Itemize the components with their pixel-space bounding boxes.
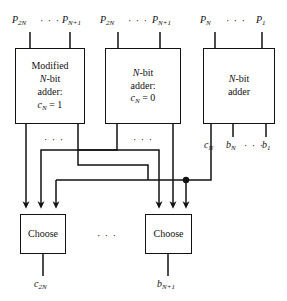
- modified-adder-line-1: Modified: [31, 60, 68, 73]
- input-label-p2n-a: P2N: [12, 14, 26, 25]
- middle-ellipsis-b: · · ·: [133, 134, 153, 145]
- nbit-adder-c0-line-1: N-bit: [133, 67, 154, 80]
- choose-ellipsis: · · ·: [97, 230, 117, 241]
- output-label-cn: cN: [204, 139, 213, 150]
- output-label-b1: b1: [262, 139, 271, 150]
- choose-right-label: Choose: [154, 228, 184, 241]
- nbit-adder-box[interactable]: N-bit adder: [203, 48, 275, 124]
- nbit-adder-line-2: adder: [228, 86, 250, 99]
- output-ellipsis: · · ·: [244, 140, 264, 151]
- junction-dot: [183, 177, 189, 183]
- wire-bus-upper: [78, 150, 148, 180]
- modified-adder-line-3: adder:: [38, 86, 63, 99]
- modified-adder-line-2: N-bit: [40, 73, 61, 86]
- choose-left-output-label: c2N: [34, 278, 47, 289]
- output-label-bn: bN: [226, 139, 236, 150]
- diagram-canvas: P2N · · · PN+1 P2N · · · PN+1 PN · · · P…: [0, 0, 287, 301]
- choose-right-box[interactable]: Choose: [145, 214, 192, 254]
- nbit-adder-c0-line-3: cN = 0: [131, 92, 156, 105]
- input-label-p1: P1: [256, 14, 266, 25]
- input-label-pn: PN: [200, 14, 211, 25]
- input-label-pn1-a: PN+1: [62, 14, 81, 25]
- nbit-adder-c0-line-2: adder:: [131, 80, 156, 93]
- choose-left-label: Choose: [28, 228, 58, 241]
- nbit-adder-line-1: N-bit: [229, 73, 250, 86]
- input-ellipsis-c: · · ·: [226, 15, 246, 26]
- choose-right-output-label: bN+1: [157, 278, 175, 289]
- input-label-p2n-b: P2N: [100, 14, 114, 25]
- input-label-pn1-b: PN+1: [152, 14, 171, 25]
- modified-adder-line-4: cN = 1: [38, 99, 63, 112]
- nbit-adder-c0-box[interactable]: N-bit adder: cN = 0: [105, 48, 181, 124]
- input-ellipsis-b: · · ·: [128, 15, 148, 26]
- modified-adder-box[interactable]: Modified N-bit adder: cN = 1: [15, 48, 85, 124]
- input-ellipsis-a: · · ·: [40, 15, 60, 26]
- choose-left-box[interactable]: Choose: [20, 214, 66, 254]
- middle-ellipsis-a: · · ·: [44, 134, 64, 145]
